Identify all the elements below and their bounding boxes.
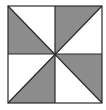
grid-lines <box>8 6 102 103</box>
pinwheel-diagram <box>0 0 106 110</box>
